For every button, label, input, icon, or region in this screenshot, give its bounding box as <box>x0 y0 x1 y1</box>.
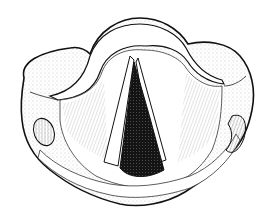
larynx-illustration <box>0 0 270 219</box>
